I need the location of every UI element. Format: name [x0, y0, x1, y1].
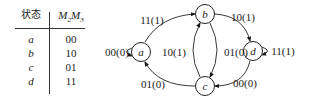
node-c: c [196, 77, 215, 96]
label-d-d: 11(1) [271, 45, 295, 58]
svg-text:a: a [138, 46, 144, 58]
label-d-c: 00(0) [233, 77, 257, 90]
label-b-d: 10(1) [231, 11, 255, 24]
edge-c-b [193, 23, 200, 77]
label-c-b: 10(1) [162, 46, 186, 59]
svg-text:c: c [203, 80, 208, 92]
label-a-b: 11(1) [140, 14, 164, 27]
label-c-a: 01(0) [141, 78, 165, 91]
svg-text:b: b [202, 8, 208, 20]
state-diagram: a b c d 00(0) 11(1) 10(1) 10(1) 01(0) 11… [0, 0, 310, 103]
label-b-c: 01(0) [224, 46, 248, 59]
edge-b-c [210, 23, 217, 77]
svg-text:d: d [250, 45, 256, 57]
node-b: b [196, 5, 215, 24]
node-a: a [132, 43, 151, 62]
label-a-a: 00(0) [105, 46, 129, 59]
